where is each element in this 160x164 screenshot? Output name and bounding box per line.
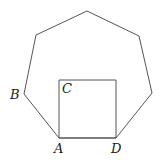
label-d: D bbox=[110, 141, 122, 156]
label-a: A bbox=[53, 141, 63, 156]
label-b: B bbox=[9, 87, 20, 102]
heptagon bbox=[24, 11, 152, 138]
label-c: C bbox=[62, 81, 72, 96]
heptagon-square-diagram: A B C D bbox=[0, 0, 160, 164]
